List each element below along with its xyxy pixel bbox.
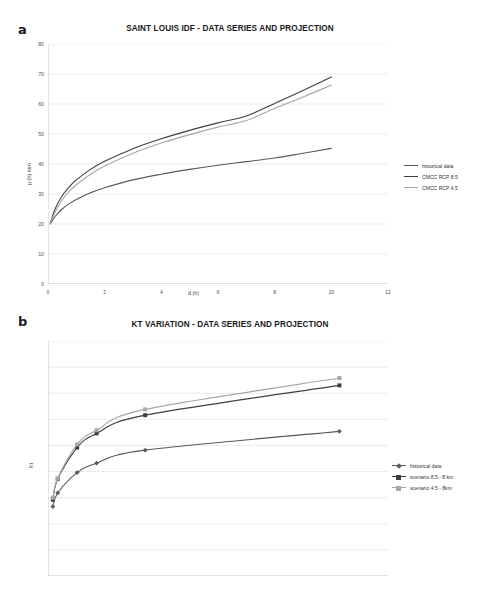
chart-b-legend: historical datascenario 8.5 - 8 kmscenar… xyxy=(392,460,453,493)
x-tick-label: 0 xyxy=(38,289,58,295)
legend-item: CMCC RCP 4.5 xyxy=(404,182,458,193)
x-tick-label: 10 xyxy=(321,289,341,295)
legend-item: historical data xyxy=(404,160,458,171)
panel-a-title: SAINT LOUIS IDF - DATA SERIES AND PROJEC… xyxy=(60,24,400,33)
y-tick-label: 10 xyxy=(26,251,44,257)
panel-b-letter: b xyxy=(18,314,27,329)
y-tick-label: 70 xyxy=(26,71,44,77)
legend-line-swatch xyxy=(404,165,418,166)
x-tick-label: 6 xyxy=(208,289,228,295)
legend-item: CMCC RCP 8.5 xyxy=(404,171,458,182)
legend-label: historical data xyxy=(410,463,441,469)
panel-b-title: KT VARIATION - DATA SERIES AND PROJECTIO… xyxy=(60,320,400,329)
y-tick-label: 50 xyxy=(26,131,44,137)
x-tick-label: 12 xyxy=(378,289,398,295)
y-tick-label: 0 xyxy=(26,281,44,287)
legend-marker-square-icon xyxy=(396,486,401,491)
chart-a-plot-area xyxy=(48,44,388,284)
x-tick-label: 8 xyxy=(265,289,285,295)
chart-a-y-axis-label: μ (h) mm xyxy=(26,163,32,185)
panel-b: b KT VARIATION - DATA SERIES AND PROJECT… xyxy=(0,300,481,598)
legend-marker-square-icon xyxy=(396,475,401,480)
chart-a-legend: historical dataCMCC RCP 8.5CMCC RCP 4.5 xyxy=(404,160,458,193)
y-tick-label: 20 xyxy=(26,221,44,227)
panel-a: a SAINT LOUIS IDF - DATA SERIES AND PROJ… xyxy=(0,0,481,300)
chart-b-y-axis-label: Kt xyxy=(28,463,34,468)
legend-label: CMCC RCP 4.5 xyxy=(422,185,458,191)
legend-marker-diamond-icon xyxy=(396,463,402,469)
legend-label: scenario 4.5 - 8km xyxy=(410,485,452,491)
legend-label: scenario 8.5 - 8 km xyxy=(410,474,453,480)
chart-a-x-axis-label: d (h) xyxy=(188,290,199,296)
panel-a-letter: a xyxy=(18,22,27,37)
legend-label: historical data xyxy=(422,163,453,169)
legend-item: scenario 4.5 - 8km xyxy=(392,482,453,493)
legend-line-swatch xyxy=(404,176,418,177)
legend-line-swatch xyxy=(404,187,418,188)
legend-line-swatch xyxy=(392,487,406,488)
y-tick-label: 60 xyxy=(26,101,44,107)
legend-line-swatch xyxy=(392,465,406,466)
y-tick-label: 80 xyxy=(26,41,44,47)
legend-label: CMCC RCP 8.5 xyxy=(422,174,458,180)
x-tick-label: 2 xyxy=(95,289,115,295)
chart-b-svg xyxy=(48,341,388,576)
legend-item: scenario 8.5 - 8 km xyxy=(392,471,453,482)
y-tick-label: 30 xyxy=(26,191,44,197)
chart-a-svg xyxy=(48,44,388,284)
x-tick-label: 4 xyxy=(151,289,171,295)
chart-b-plot-area xyxy=(48,341,388,576)
legend-item: historical data xyxy=(392,460,453,471)
legend-line-swatch xyxy=(392,476,406,477)
